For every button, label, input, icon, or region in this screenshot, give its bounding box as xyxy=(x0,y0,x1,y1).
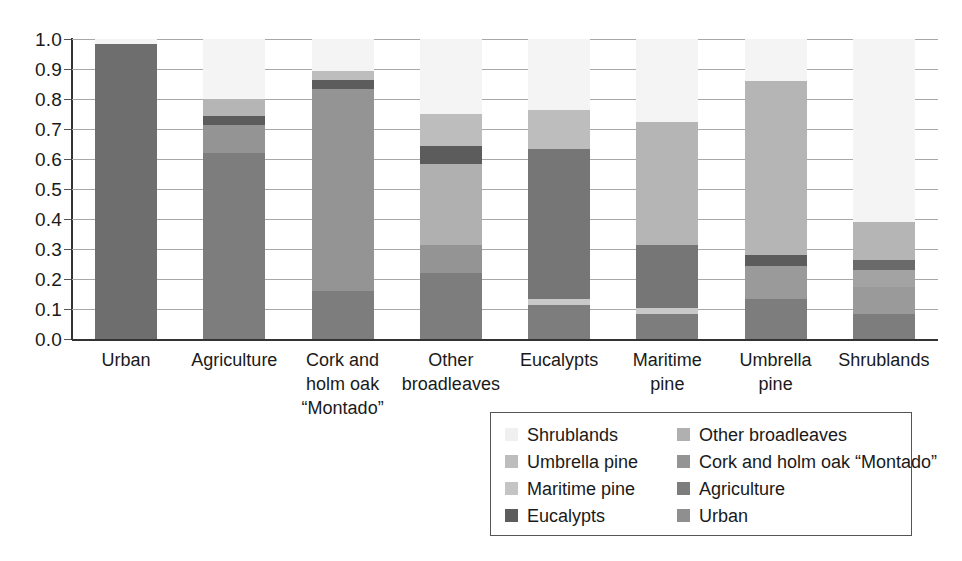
legend-item[interactable]: Umbrella pine xyxy=(505,448,675,475)
legend-label: Other broadleaves xyxy=(699,425,847,445)
bar-segment xyxy=(636,122,698,245)
bar-segment xyxy=(420,114,482,146)
bar-segment xyxy=(312,39,374,71)
bar-stack xyxy=(528,39,590,339)
bar-group xyxy=(745,39,807,339)
bar-group xyxy=(420,39,482,339)
legend-label: Umbrella pine xyxy=(527,452,638,472)
legend-label: Cork and holm oak “Montado” xyxy=(699,452,937,472)
bar-stack xyxy=(745,39,807,339)
bar-segment xyxy=(420,164,482,245)
x-axis-label-line: holm oak xyxy=(289,372,397,396)
bar-segment xyxy=(420,146,482,164)
x-axis-label: Agriculture xyxy=(180,348,288,372)
x-axis-label: Otherbroadleaves xyxy=(397,348,505,396)
legend-item[interactable]: Eucalypts xyxy=(505,502,675,529)
x-axis-label-line: Cork and xyxy=(289,348,397,372)
legend-label: Maritime pine xyxy=(527,479,635,499)
x-axis-label: Cork andholm oak“Montado” xyxy=(289,348,397,420)
legend-swatch-icon xyxy=(505,482,518,495)
legend-swatch-icon xyxy=(677,428,690,441)
bar-segment xyxy=(636,314,698,340)
bar-stack xyxy=(95,39,157,339)
legend-column: Other broadleavesCork and holm oak “Mont… xyxy=(675,413,925,535)
legend-label: Eucalypts xyxy=(527,506,605,526)
x-axis-label-line: “Montado” xyxy=(289,396,397,420)
stacked-bar-chart: 1.0 0.9 0.8 0.7 0.6 0.5 0.4 0.3 0.2 0.1 … xyxy=(0,0,962,561)
legend-swatch-icon xyxy=(677,455,690,468)
x-axis-label-line: Agriculture xyxy=(180,348,288,372)
bar-stack xyxy=(203,39,265,339)
bar-segment xyxy=(745,39,807,81)
legend-swatch-icon xyxy=(677,509,690,522)
bar-segment xyxy=(420,273,482,339)
bar-segment xyxy=(203,153,265,339)
x-axis-label: Urban xyxy=(72,348,180,372)
bar-segment xyxy=(853,270,915,287)
x-axis-label-line: Other xyxy=(397,348,505,372)
legend-item[interactable]: Urban xyxy=(677,502,925,529)
bar-segment xyxy=(853,39,915,222)
bar-segment xyxy=(528,110,590,149)
x-axis-baseline xyxy=(72,339,938,341)
legend-item[interactable]: Agriculture xyxy=(677,475,925,502)
bar-stack xyxy=(853,39,915,339)
x-axis-label: Shrublands xyxy=(830,348,938,372)
legend-item[interactable]: Shrublands xyxy=(505,421,675,448)
bar-segment xyxy=(528,39,590,110)
bar-segment xyxy=(528,149,590,299)
legend-item[interactable]: Maritime pine xyxy=(505,475,675,502)
bar-segment xyxy=(95,44,157,340)
bar-stack xyxy=(636,39,698,339)
legend-swatch-icon xyxy=(677,482,690,495)
bar-group xyxy=(95,39,157,339)
x-axis-label-line: Urban xyxy=(72,348,180,372)
bars-layer xyxy=(72,39,938,339)
y-axis-tick-marks xyxy=(0,39,72,339)
bar-segment xyxy=(312,80,374,89)
legend-label: Urban xyxy=(699,506,748,526)
x-axis-label: Umbrellapine xyxy=(722,348,830,396)
x-axis-label-line: Maritime xyxy=(613,348,721,372)
bar-segment xyxy=(853,222,915,260)
bar-group xyxy=(203,39,265,339)
bar-segment xyxy=(203,39,265,99)
bar-segment xyxy=(203,125,265,154)
bar-group xyxy=(528,39,590,339)
x-axis-label-line: Eucalypts xyxy=(505,348,613,372)
bar-segment xyxy=(312,89,374,292)
legend-label: Agriculture xyxy=(699,479,785,499)
legend-swatch-icon xyxy=(505,455,518,468)
x-axis-label-line: Umbrella xyxy=(722,348,830,372)
bar-segment xyxy=(312,291,374,339)
bar-stack xyxy=(420,39,482,339)
x-axis-label-line: pine xyxy=(613,372,721,396)
bar-segment xyxy=(312,71,374,80)
bar-segment xyxy=(745,299,807,340)
bar-segment xyxy=(745,266,807,299)
legend-column: ShrublandsUmbrella pineMaritime pineEuca… xyxy=(491,413,675,535)
bar-segment xyxy=(853,287,915,314)
legend-swatch-icon xyxy=(505,509,518,522)
bar-group xyxy=(636,39,698,339)
bar-segment xyxy=(745,255,807,266)
legend: ShrublandsUmbrella pineMaritime pineEuca… xyxy=(490,412,912,536)
legend-label: Shrublands xyxy=(527,425,618,445)
x-axis-label: Maritimepine xyxy=(613,348,721,396)
bar-stack xyxy=(312,39,374,339)
legend-item[interactable]: Cork and holm oak “Montado” xyxy=(677,448,925,475)
x-axis-label: Eucalypts xyxy=(505,348,613,372)
bar-group xyxy=(853,39,915,339)
bar-segment xyxy=(528,305,590,340)
bar-segment xyxy=(420,39,482,114)
bar-segment xyxy=(636,39,698,122)
bar-segment xyxy=(853,314,915,340)
bar-segment xyxy=(203,99,265,116)
x-axis-label-line: Shrublands xyxy=(830,348,938,372)
bar-segment xyxy=(636,245,698,308)
bar-group xyxy=(312,39,374,339)
bar-segment xyxy=(745,81,807,255)
bar-segment xyxy=(420,245,482,274)
legend-item[interactable]: Other broadleaves xyxy=(677,421,925,448)
bar-segment xyxy=(203,116,265,125)
